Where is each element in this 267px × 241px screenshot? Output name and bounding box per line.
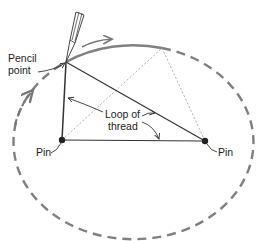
loop-leader-left bbox=[68, 98, 103, 112]
pin-right-icon bbox=[202, 138, 208, 144]
pin-left-icon bbox=[59, 137, 65, 143]
pin-left-label: Pin bbox=[36, 146, 51, 158]
pencil-point-label-line2: point bbox=[8, 64, 31, 76]
loop-leader-right-1 bbox=[142, 113, 155, 116]
pin-right-label: Pin bbox=[218, 146, 233, 158]
loop-label-line2: thread bbox=[108, 120, 138, 132]
direction-arrow-left bbox=[15, 90, 33, 125]
loop-label-line1: Loop of bbox=[105, 108, 140, 120]
direction-arrow-top bbox=[82, 39, 112, 47]
loop-leader-right-2 bbox=[142, 122, 159, 139]
pin-left-leader bbox=[51, 143, 61, 153]
pencil-point-label-line1: Pencil bbox=[8, 52, 37, 64]
pin-right-leader bbox=[207, 144, 217, 152]
